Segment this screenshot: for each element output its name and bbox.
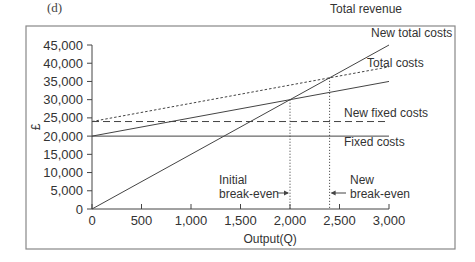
x-tick-label: 1,500	[224, 213, 257, 228]
y-tick-label: 20,000	[43, 129, 83, 144]
x-tick-label: 2,000	[274, 213, 307, 228]
annotation-initial-line1: Initial	[219, 173, 247, 187]
x-tick-label: 500	[131, 213, 153, 228]
annotation-new-line1: New	[350, 173, 374, 187]
series-label: New fixed costs	[344, 106, 428, 120]
y-tick-label: 40,000	[43, 56, 83, 71]
y-tick-label: 30,000	[43, 92, 83, 107]
labels-group: Total revenueNew total costsTotal costsN…	[219, 2, 452, 201]
y-tick-label: 0	[76, 202, 83, 217]
y-tick-label: 5,000	[50, 183, 83, 198]
arrowhead-initial	[284, 191, 289, 196]
arrowhead-new	[331, 191, 336, 196]
series-label: Total revenue	[330, 2, 402, 16]
y-tick-label: 45,000	[43, 38, 83, 53]
annotation-new-line2: break-even	[350, 187, 410, 201]
break-even-guides	[290, 78, 330, 209]
y-axis-label: £	[29, 123, 43, 130]
y-tick-label: 35,000	[43, 74, 83, 89]
y-tick-label: 15,000	[43, 147, 83, 162]
y-tick-label: 10,000	[43, 165, 83, 180]
x-tick-label: 1,000	[175, 213, 208, 228]
annotation-initial-line2: break-even	[219, 187, 279, 201]
series-label: New total costs	[371, 26, 452, 40]
x-tick-label: 0	[88, 213, 95, 228]
series-label: Fixed costs	[344, 135, 405, 149]
x-tick-label: 2,500	[323, 213, 356, 228]
y-tick-label: 25,000	[43, 110, 83, 125]
x-tick-label: 3,000	[373, 213, 406, 228]
x-axis-label: Output(Q)	[244, 232, 297, 246]
series-label: Total costs	[367, 56, 424, 70]
break-even-chart: 05001,0001,5002,0002,5003,00005,00010,00…	[0, 0, 475, 262]
